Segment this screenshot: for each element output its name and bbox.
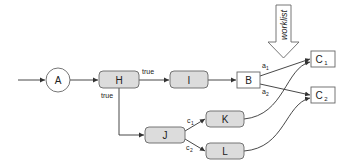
node-c2: C 2 [311, 87, 335, 103]
node-c1-label: C [315, 54, 322, 65]
edge-l-c2 [244, 98, 310, 151]
edge-label-a1-sub: 1 [266, 65, 269, 71]
node-j: J [145, 127, 185, 143]
node-c2-label: C [315, 90, 322, 101]
node-i-label: I [188, 75, 191, 86]
node-a: A [46, 68, 70, 92]
edge-label-h-j: true [101, 92, 113, 99]
node-l-label: L [222, 146, 228, 157]
node-h: H [99, 71, 139, 88]
node-c1: C 1 [311, 51, 335, 67]
flow-diagram: worklist A H I B C 1 C 2 J K [0, 0, 353, 168]
edge-label-h-i: true [142, 68, 154, 75]
node-a-label: A [55, 75, 62, 86]
edge-h-j [119, 88, 144, 135]
edge-label-a2-sub: 2 [266, 91, 269, 97]
node-h-label: H [115, 75, 122, 86]
node-k: K [206, 111, 244, 127]
node-i: I [170, 71, 208, 88]
worklist-arrow: worklist [268, 5, 299, 58]
edge-label-c2-sub: 2 [190, 147, 193, 153]
node-k-label: K [222, 114, 229, 125]
node-b: B [237, 72, 260, 88]
edge-label-c1-sub: 1 [191, 120, 194, 126]
worklist-label: worklist [279, 9, 289, 40]
node-j-label: J [163, 130, 168, 141]
node-b-label: B [245, 75, 252, 86]
node-l: L [206, 143, 244, 159]
